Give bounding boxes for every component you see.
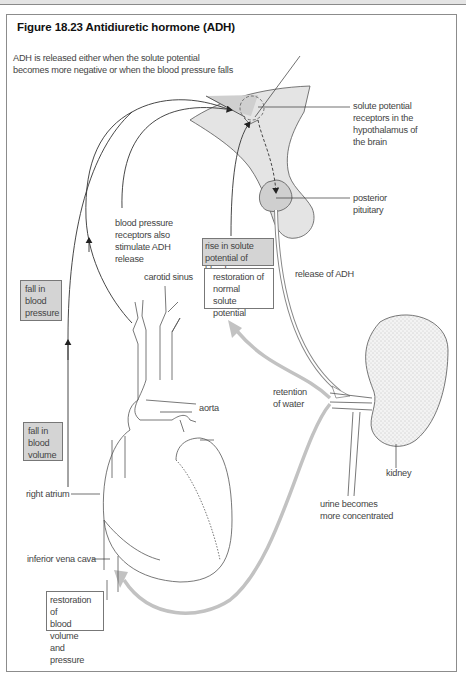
- carotid-vessels: [133, 286, 180, 380]
- box-rise-solute-potential: rise in solute potential of blood: [202, 238, 274, 266]
- box-line: restoration of: [50, 594, 100, 618]
- box-line: potential: [213, 307, 265, 319]
- label-line: urine becomes: [320, 498, 393, 510]
- bp-receptors-label: blood pressure receptors also stimulate …: [115, 217, 173, 265]
- label-line: receptors also: [115, 229, 173, 241]
- box-fall-blood-volume: fall in blood volume: [23, 422, 63, 461]
- intro-text: ADH is released either when the solute p…: [13, 52, 233, 76]
- solute-receptors-label: solute potential receptors in the hypoth…: [353, 100, 417, 148]
- box-restoration-solute: restoration of normal solute potential: [204, 268, 274, 309]
- box-line: and pressure: [50, 642, 100, 666]
- right-atrium-label: right atrium: [26, 488, 70, 500]
- aorta-label: aorta: [199, 402, 219, 414]
- label-line: the brain: [353, 136, 417, 148]
- box-line: rise in solute: [205, 240, 271, 252]
- posterior-pituitary-label: posterior pituitary: [353, 192, 387, 216]
- box-line: fall in: [25, 283, 57, 295]
- label-line: more concentrated: [320, 510, 393, 522]
- release-of-adh-label: release of ADH: [295, 268, 354, 280]
- label-line: solute potential: [353, 100, 417, 112]
- kidney-label: kidney: [386, 467, 411, 479]
- intro-line-1: ADH is released either when the solute p…: [13, 52, 233, 64]
- intro-line-2: becomes more negative or when the blood …: [13, 64, 233, 76]
- box-line: normal solute: [213, 283, 265, 307]
- label-line: release: [115, 253, 173, 265]
- box-line: restoration of: [213, 271, 265, 283]
- label-line: receptors in the: [353, 112, 417, 124]
- label-line: retention: [273, 386, 307, 398]
- box-fall-blood-pressure: fall in blood pressure: [20, 280, 62, 321]
- box-line: blood: [25, 295, 57, 307]
- carotid-sinus-label: carotid sinus: [144, 271, 193, 283]
- label-line: pituitary: [353, 204, 387, 216]
- box-line: blood: [28, 437, 58, 449]
- retention-of-water-label: retention of water: [273, 386, 307, 410]
- hypothalamus-brain-shape: [190, 56, 314, 238]
- box-line: blood volume: [50, 618, 100, 642]
- urine-concentrated-label: urine becomes more concentrated: [320, 498, 393, 522]
- box-line: fall in: [28, 425, 58, 437]
- label-line: of water: [273, 398, 307, 410]
- box-restoration-volume: restoration of blood volume and pressure: [46, 591, 104, 631]
- box-line: volume: [28, 449, 58, 461]
- label-line: stimulate ADH: [115, 241, 173, 253]
- label-line: posterior: [353, 192, 387, 204]
- kidney-shape: [366, 315, 448, 446]
- label-line: blood pressure: [115, 217, 173, 229]
- inferior-vena-cava-label: inferior vena cava: [27, 553, 96, 565]
- gray-arrow-volume: [124, 404, 330, 613]
- label-line: hypothalamus of: [353, 124, 417, 136]
- box-line: pressure: [25, 307, 57, 319]
